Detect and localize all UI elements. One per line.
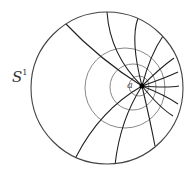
hyperbolic-disk-diagram xyxy=(0,0,190,169)
circle-label-superscript: 1 xyxy=(22,68,27,77)
geodesic-line xyxy=(142,58,174,86)
point-a xyxy=(140,84,145,89)
outer-circle xyxy=(31,12,183,164)
geodesic-line xyxy=(142,86,178,104)
diagram: S1 a xyxy=(0,0,190,169)
level-circle xyxy=(85,48,165,128)
geodesic-line xyxy=(142,86,179,87)
point-label: a xyxy=(127,79,133,90)
circle-label: S1 xyxy=(12,68,27,86)
circle-label-text: S xyxy=(12,68,22,86)
geodesic-line xyxy=(142,72,178,86)
